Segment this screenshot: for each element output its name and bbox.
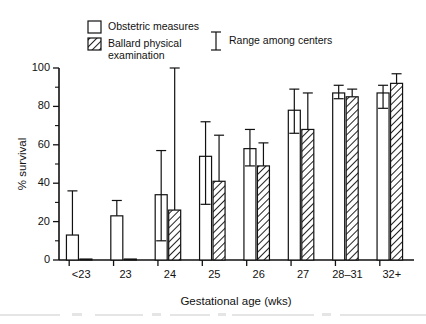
y-axis-title: % survival [16, 138, 28, 190]
y-tick-label-20: 20 [38, 215, 50, 227]
x-tick-label: 26 [253, 268, 265, 280]
legend-label-range: Range among centers [229, 34, 332, 46]
scan-artifacts [0, 313, 426, 316]
bar-group: 26 [244, 129, 270, 280]
range-error-bar [392, 74, 402, 84]
x-tick-label: <23 [72, 268, 91, 280]
bar-ballard [80, 259, 92, 260]
legend: Obstetric measures Ballard physical exam… [88, 20, 332, 61]
bar-obstetric [66, 235, 78, 260]
bar-group: 23 [111, 200, 137, 280]
y-tick-label-80: 80 [38, 99, 50, 111]
range-error-bar [170, 68, 180, 210]
y-axis: 100 80 60 40 20 0 % survival [16, 61, 59, 265]
plot-area: <23232425262728–3132+ [66, 68, 402, 280]
legend-label-ballard-line1: Ballard physical [108, 37, 182, 49]
bar-ballard [257, 166, 269, 260]
bar-group: 24 [155, 68, 181, 280]
legend-swatch-obstetric [88, 21, 101, 33]
range-error-bar [67, 191, 77, 235]
bar-obstetric [333, 93, 345, 260]
legend-label-ballard-line2: examination [108, 49, 165, 61]
bar-ballard [346, 97, 358, 260]
bar-obstetric [377, 93, 389, 260]
range-error-bar [258, 143, 268, 166]
legend-swatch-ballard [88, 38, 101, 50]
x-tick-label: 24 [164, 268, 176, 280]
x-tick-label: 23 [119, 268, 131, 280]
legend-errorbar-icon [211, 32, 221, 50]
range-error-bar [303, 93, 313, 129]
x-tick-label: 25 [208, 268, 220, 280]
x-tick-label: 27 [297, 268, 309, 280]
bar-ballard [302, 129, 314, 260]
bar-group: <23 [66, 191, 92, 280]
bar-ballard [391, 83, 403, 260]
bar-group: 27 [288, 89, 314, 280]
range-error-bar [347, 89, 357, 97]
y-tick-label-40: 40 [38, 176, 50, 188]
range-error-bar [214, 135, 224, 181]
y-tick-label-60: 60 [38, 138, 50, 150]
bar-group: 28–31 [332, 85, 363, 280]
bar-ballard [169, 210, 181, 260]
bar-group: 32+ [377, 74, 403, 280]
figure-container: Obstetric measures Ballard physical exam… [0, 0, 426, 324]
range-error-bar [112, 200, 122, 215]
bar-group: 25 [200, 122, 226, 280]
bar-ballard [124, 259, 136, 260]
bar-chart: Obstetric measures Ballard physical exam… [0, 0, 426, 324]
x-tick-label: 28–31 [332, 268, 363, 280]
bar-obstetric [111, 216, 123, 260]
y-tick-label-100: 100 [32, 61, 50, 73]
x-tick-label: 32+ [382, 268, 401, 280]
legend-label-obstetric: Obstetric measures [108, 20, 199, 32]
x-axis-title: Gestational age (wks) [180, 295, 291, 307]
bar-ballard [213, 181, 225, 260]
y-tick-label-0: 0 [44, 253, 50, 265]
